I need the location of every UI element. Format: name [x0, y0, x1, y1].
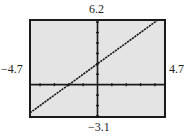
ymax-label: 6.2	[89, 3, 104, 15]
xmax-label: 4.7	[169, 63, 184, 75]
graph-screen	[29, 19, 166, 118]
xmin-label: −4.7	[1, 63, 23, 75]
ymin-label: −3.1	[88, 121, 110, 133]
